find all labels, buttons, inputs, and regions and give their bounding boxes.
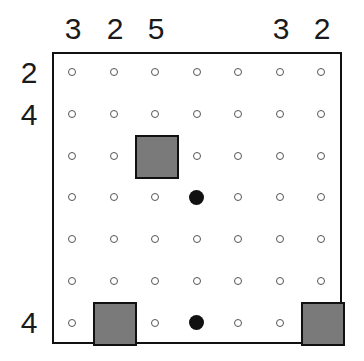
grid-cell[interactable] — [93, 218, 135, 260]
empty-dot-icon — [151, 110, 159, 118]
grid-cell[interactable] — [52, 135, 94, 177]
empty-dot-icon — [234, 319, 242, 327]
empty-dot-icon — [193, 68, 201, 76]
empty-dot-icon — [151, 193, 159, 201]
grid-cell[interactable] — [259, 177, 301, 219]
empty-dot-icon — [317, 235, 325, 243]
grid-cell[interactable] — [93, 52, 135, 94]
empty-dot-icon — [234, 110, 242, 118]
empty-dot-icon — [110, 152, 118, 160]
grid-cell[interactable] — [52, 260, 94, 302]
grid-cell[interactable] — [52, 302, 94, 344]
empty-dot-icon — [110, 110, 118, 118]
empty-dot-icon — [317, 277, 325, 285]
grid-cell[interactable] — [52, 177, 94, 219]
empty-dot-icon — [68, 193, 76, 201]
empty-dot-icon — [234, 68, 242, 76]
grid-cell[interactable] — [218, 135, 260, 177]
grid-cell[interactable] — [218, 93, 260, 135]
empty-dot-icon — [276, 152, 284, 160]
row-clue-7: 4 — [14, 306, 44, 340]
grid-cell[interactable] — [301, 52, 343, 94]
empty-dot-icon — [110, 235, 118, 243]
grid-cell[interactable] — [135, 93, 177, 135]
empty-dot-icon — [193, 152, 201, 160]
empty-dot-icon — [234, 277, 242, 285]
empty-dot-icon — [151, 68, 159, 76]
empty-dot-icon — [317, 193, 325, 201]
empty-dot-icon — [151, 277, 159, 285]
empty-dot-icon — [317, 110, 325, 118]
empty-dot-icon — [276, 277, 284, 285]
grid-cell[interactable] — [93, 135, 135, 177]
grid-cell[interactable] — [259, 218, 301, 260]
empty-dot-icon — [276, 110, 284, 118]
grid-cell[interactable] — [259, 52, 301, 94]
empty-dot-icon — [110, 193, 118, 201]
grid-cell[interactable] — [218, 260, 260, 302]
empty-dot-icon — [151, 319, 159, 327]
grid-cell[interactable] — [176, 177, 218, 219]
grid-cell[interactable] — [218, 52, 260, 94]
empty-dot-icon — [317, 68, 325, 76]
grid-cell[interactable] — [52, 218, 94, 260]
grid-cell[interactable] — [176, 260, 218, 302]
empty-dot-icon — [317, 152, 325, 160]
grid-cell[interactable] — [259, 302, 301, 344]
grid-cell[interactable] — [135, 52, 177, 94]
empty-dot-icon — [193, 277, 201, 285]
column-clue-3: 5 — [135, 12, 177, 46]
empty-dot-icon — [234, 193, 242, 201]
empty-dot-icon — [68, 152, 76, 160]
puzzle-grid — [52, 52, 342, 344]
column-clue-6: 3 — [260, 12, 302, 46]
empty-dot-icon — [234, 235, 242, 243]
grid-cell[interactable] — [93, 177, 135, 219]
grid-cell[interactable] — [93, 93, 135, 135]
bulb-icon — [189, 190, 204, 205]
grid-cell[interactable] — [135, 302, 177, 344]
grid-cell[interactable] — [301, 93, 343, 135]
grid-cell[interactable] — [218, 302, 260, 344]
grid-cell[interactable] — [52, 93, 94, 135]
grid-cell[interactable] — [135, 218, 177, 260]
empty-dot-icon — [234, 152, 242, 160]
empty-dot-icon — [276, 319, 284, 327]
empty-dot-icon — [68, 110, 76, 118]
column-clue-2: 2 — [94, 12, 136, 46]
black-block — [301, 302, 345, 346]
empty-dot-icon — [276, 193, 284, 201]
grid-cell[interactable] — [259, 93, 301, 135]
empty-dot-icon — [68, 235, 76, 243]
grid-cell[interactable] — [176, 135, 218, 177]
empty-dot-icon — [276, 68, 284, 76]
grid-cell[interactable] — [176, 52, 218, 94]
empty-dot-icon — [68, 319, 76, 327]
grid-cell[interactable] — [135, 260, 177, 302]
grid-cell[interactable] — [259, 135, 301, 177]
grid-cell[interactable] — [135, 177, 177, 219]
black-block — [93, 302, 137, 346]
grid-cell[interactable] — [218, 218, 260, 260]
bulb-icon — [189, 315, 204, 330]
empty-dot-icon — [193, 235, 201, 243]
empty-dot-icon — [110, 277, 118, 285]
black-block — [135, 135, 179, 179]
grid-cell[interactable] — [176, 93, 218, 135]
grid-cell[interactable] — [301, 218, 343, 260]
empty-dot-icon — [193, 110, 201, 118]
grid-cell[interactable] — [259, 260, 301, 302]
empty-dot-icon — [68, 277, 76, 285]
grid-cell[interactable] — [93, 260, 135, 302]
grid-cell[interactable] — [218, 177, 260, 219]
grid-cell[interactable] — [52, 52, 94, 94]
column-clue-7: 2 — [301, 12, 343, 46]
empty-dot-icon — [151, 235, 159, 243]
grid-cell[interactable] — [301, 135, 343, 177]
grid-cell[interactable] — [176, 218, 218, 260]
grid-cell[interactable] — [301, 260, 343, 302]
row-clue-2: 4 — [14, 98, 44, 132]
grid-cell[interactable] — [301, 177, 343, 219]
row-clue-1: 2 — [14, 56, 44, 90]
grid-cell[interactable] — [176, 302, 218, 344]
